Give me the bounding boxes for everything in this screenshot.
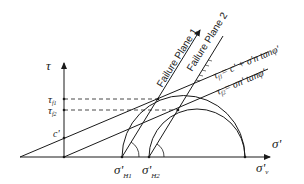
sigma-h2-label: σ'H2	[142, 162, 160, 180]
y-axis-label: τ	[46, 58, 52, 73]
mohr-diagram: τ σ' τf1 τf2 c' σ'H1 σ'H2 σ'v Failure Pl…	[0, 0, 304, 184]
cohesion-label: c'	[53, 128, 60, 139]
sigma-v-label: σ'v	[256, 160, 269, 176]
angle-arc-1	[131, 142, 139, 157]
sigma-h1-label: σ'H1	[114, 162, 132, 180]
failure-plane-2-line	[149, 36, 223, 157]
angle-arc-2	[157, 144, 164, 157]
x-axis-label: σ'	[272, 136, 281, 151]
